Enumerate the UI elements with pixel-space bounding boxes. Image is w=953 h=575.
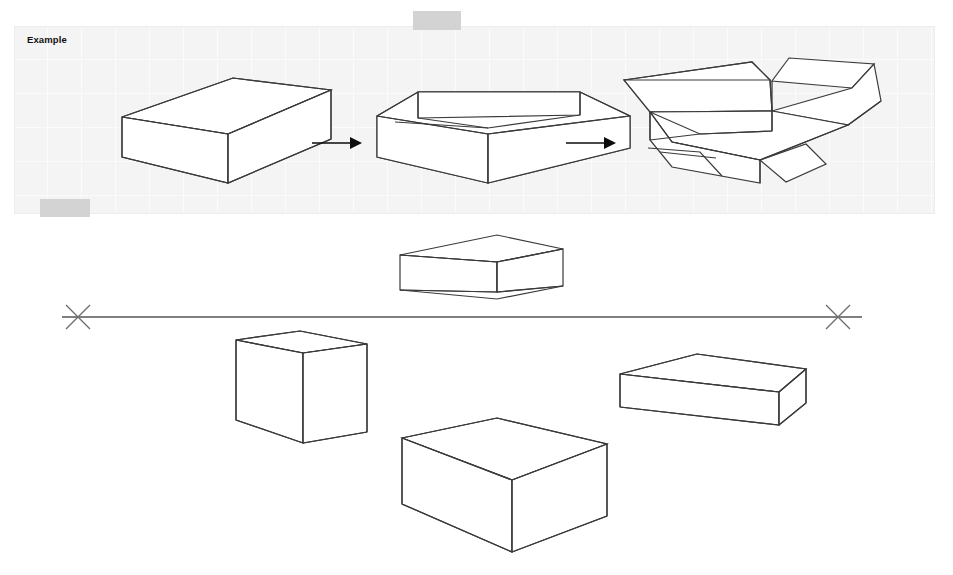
box-eye-level — [400, 235, 563, 299]
box-thick-center — [402, 418, 607, 552]
box-flat-right — [620, 354, 806, 425]
drawing-canvas: Example — [0, 0, 953, 575]
box-tall-left — [236, 331, 367, 443]
workspace-drawings-layer — [0, 0, 953, 575]
